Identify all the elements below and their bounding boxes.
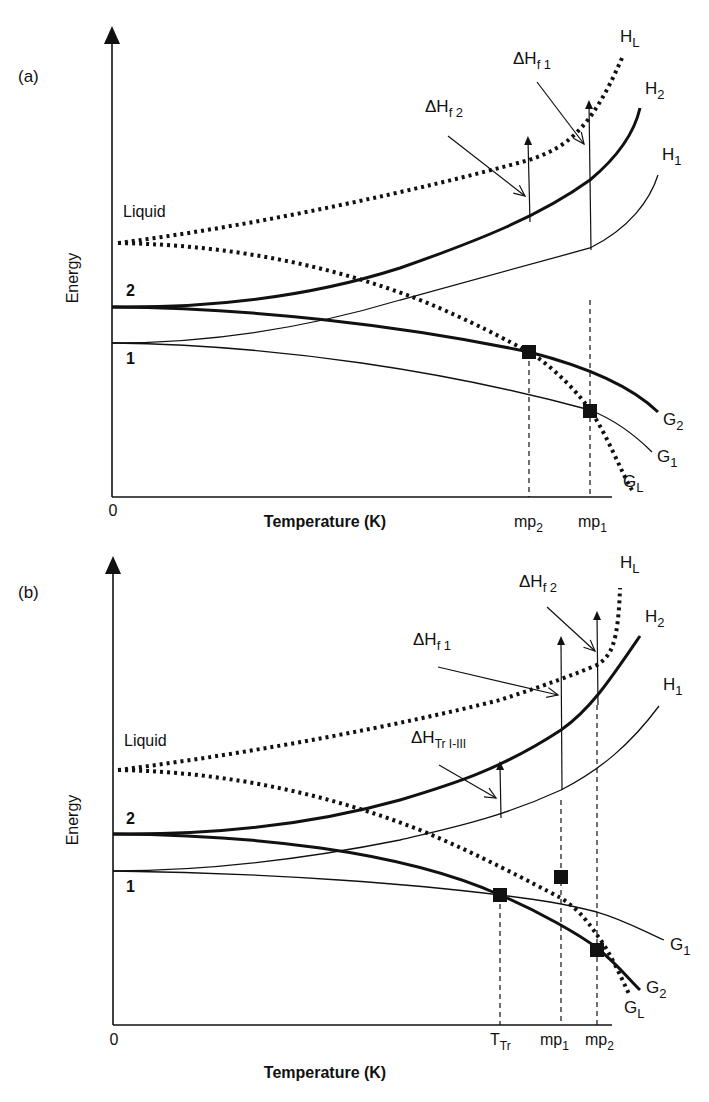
- G1-label: G1: [670, 935, 690, 958]
- tick-mp1: mp1: [540, 1031, 569, 1053]
- H1-curve: [113, 706, 659, 871]
- panel-label: (a): [18, 67, 39, 86]
- form-1-label: 1: [126, 350, 135, 367]
- form-2-label: 2: [126, 282, 135, 299]
- y-axis-arrow-icon: [104, 26, 120, 44]
- panel-b: (b) Energy 0 Temperature (K): [18, 553, 690, 1081]
- origin-label: 0: [109, 502, 118, 519]
- dHf1-arrow: [561, 640, 562, 790]
- x-axis-label: Temperature (K): [264, 1064, 386, 1081]
- x-axis-label: Temperature (K): [264, 513, 386, 530]
- dHf1-label: ΔHf 1: [413, 630, 451, 653]
- mp2-point: [522, 345, 536, 359]
- tick-mp2: mp2: [585, 1031, 614, 1053]
- tick-mp1: mp1: [578, 513, 607, 535]
- H1-label: H1: [662, 145, 682, 168]
- axes: [105, 556, 612, 1025]
- mp2-point: [590, 943, 604, 957]
- y-axis-label: Energy: [64, 253, 81, 304]
- mp1-point: [583, 404, 597, 418]
- liquid-label: Liquid: [123, 203, 166, 220]
- G1-label: G1: [657, 447, 677, 470]
- form-2-label: 2: [126, 810, 135, 827]
- G2-label: G2: [646, 978, 666, 1001]
- dHf2-arrow: [597, 615, 598, 705]
- H2-label: H2: [645, 607, 665, 630]
- G1-curve: [112, 343, 652, 452]
- GL-label: GL: [624, 998, 644, 1021]
- dHf1-arrow: [589, 104, 591, 250]
- liquid-label: Liquid: [124, 732, 167, 749]
- H2-curve: [112, 108, 640, 307]
- GL-label: GL: [623, 472, 643, 495]
- axes: [104, 26, 612, 497]
- tick-ttr: TTr: [490, 1031, 511, 1053]
- dHf1-label: ΔHf 1: [513, 49, 551, 72]
- GL-curve: [118, 243, 632, 490]
- mp1-point: [554, 870, 568, 884]
- form-1-label: 1: [126, 878, 135, 895]
- y-axis-label: Energy: [64, 795, 81, 846]
- dHtr-label: ΔHTr I-III: [411, 728, 466, 751]
- dHtr-arrow: [500, 765, 501, 818]
- HL-curve: [118, 588, 620, 770]
- HL-label: HL: [620, 553, 640, 576]
- dHf2-label: ΔHf 2: [519, 572, 557, 595]
- ttr-point: [493, 888, 507, 902]
- G1-curve: [113, 871, 664, 940]
- H2-label: H2: [645, 79, 665, 102]
- H1-curve: [112, 175, 658, 343]
- energy-temperature-diagrams: (a) Energy 0 Temperature (K) ΔHf 2: [0, 0, 709, 1102]
- G2-label: G2: [663, 410, 683, 433]
- HL-label: HL: [620, 27, 640, 50]
- panel-a: (a) Energy 0 Temperature (K) ΔHf 2: [18, 26, 683, 535]
- origin-label: 0: [110, 1031, 119, 1048]
- y-axis-arrow-icon: [105, 556, 121, 574]
- dHf2-pointer: [547, 607, 595, 651]
- HL-curve: [118, 58, 622, 243]
- panel-label: (b): [18, 583, 39, 602]
- G2-curve: [112, 307, 658, 412]
- dHf1-pointer: [537, 82, 584, 144]
- dHf2-arrow: [528, 140, 530, 222]
- dHf2-pointer: [448, 136, 525, 196]
- H1-label: H1: [663, 675, 683, 698]
- dHf2-label: ΔHf 2: [425, 97, 463, 120]
- dHf1-pointer: [438, 667, 558, 695]
- tick-mp2: mp2: [514, 513, 543, 535]
